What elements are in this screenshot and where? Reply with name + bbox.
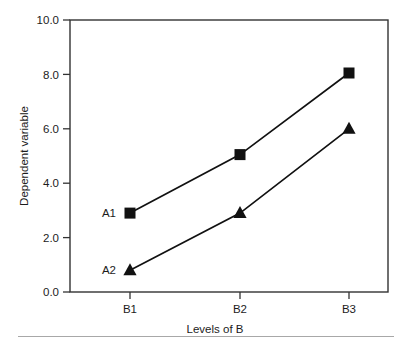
y-axis-title: Dependent variable bbox=[18, 106, 30, 206]
marker-a1-b1 bbox=[125, 208, 136, 219]
y-tick-label-0: 0.0 bbox=[43, 286, 59, 298]
figure-container: 0.0 2.0 4.0 6.0 8.0 10.0 B1 B2 B3 Levels… bbox=[0, 0, 410, 346]
series-label-a1: A1 bbox=[102, 207, 116, 219]
marker-a1-b2 bbox=[235, 149, 246, 160]
y-tick-label-8: 8.0 bbox=[43, 69, 59, 81]
y-axis-tick-labels: 0.0 2.0 4.0 6.0 8.0 10.0 bbox=[37, 14, 59, 298]
line-chart: 0.0 2.0 4.0 6.0 8.0 10.0 B1 B2 B3 Levels… bbox=[0, 0, 410, 346]
x-axis-ticks bbox=[130, 292, 349, 299]
y-tick-label-4: 4.0 bbox=[43, 177, 59, 189]
y-tick-label-6: 6.0 bbox=[43, 123, 59, 135]
y-tick-label-10: 10.0 bbox=[37, 14, 59, 26]
x-tick-label-b1: B1 bbox=[123, 303, 137, 315]
series-label-a2: A2 bbox=[102, 264, 116, 276]
y-tick-label-2: 2.0 bbox=[43, 232, 59, 244]
y-axis-ticks bbox=[63, 20, 70, 292]
plot-frame bbox=[70, 20, 388, 292]
x-tick-label-b3: B3 bbox=[342, 303, 356, 315]
x-tick-label-b2: B2 bbox=[233, 303, 247, 315]
marker-a1-b3 bbox=[344, 68, 355, 79]
x-axis-tick-labels: B1 B2 B3 bbox=[123, 303, 356, 315]
x-axis-title: Levels of B bbox=[187, 323, 244, 335]
